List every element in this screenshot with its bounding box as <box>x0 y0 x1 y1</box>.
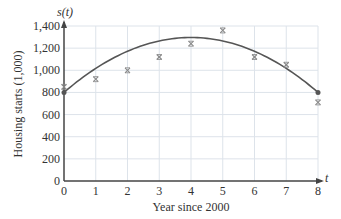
x-tick-label: 3 <box>156 184 162 198</box>
curve-endpoint-dot <box>62 90 67 95</box>
y-tick-label: 1,400 <box>33 19 60 33</box>
x-tick-label: 1 <box>93 184 99 198</box>
y-tick-label: 200 <box>42 152 60 166</box>
x-tick-label: 2 <box>125 184 131 198</box>
y-axis-arrow-icon <box>61 20 67 28</box>
x-tick-label: 4 <box>188 184 194 198</box>
x-axis-variable: t <box>325 171 329 185</box>
y-axis-label: Housing starts (1,000) <box>11 51 25 158</box>
y-tick-label: 600 <box>42 108 60 122</box>
grid-lines <box>64 26 318 181</box>
y-tick-label: 400 <box>42 130 60 144</box>
x-tick-label: 8 <box>315 184 321 198</box>
x-tick-labels: 012345678 <box>61 184 321 198</box>
housing-starts-chart: 02004006008001,0001,2001,400 012345678 H… <box>0 0 341 219</box>
y-tick-label: 800 <box>42 85 60 99</box>
x-tick-label: 6 <box>252 184 258 198</box>
y-axis-variable: s(t) <box>57 5 73 19</box>
x-tick-label: 7 <box>283 184 289 198</box>
y-tick-label: 1,200 <box>33 41 60 55</box>
curve-endpoint-dot <box>316 90 321 95</box>
y-tick-labels: 02004006008001,0001,2001,400 <box>33 19 60 188</box>
y-tick-label: 0 <box>54 174 60 188</box>
x-tick-label: 5 <box>220 184 226 198</box>
y-tick-label: 1,000 <box>33 63 60 77</box>
x-tick-label: 0 <box>61 184 67 198</box>
x-axis-label: Year since 2000 <box>153 200 230 214</box>
